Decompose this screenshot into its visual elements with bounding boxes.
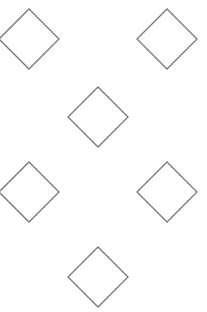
diamond-lower-right bbox=[137, 162, 197, 222]
diamond-top-right bbox=[137, 9, 197, 69]
diamond-top-left bbox=[0, 9, 59, 69]
diamond-center bbox=[68, 87, 128, 147]
diagram-canvas bbox=[0, 0, 207, 312]
diamond-bottom-center bbox=[68, 247, 128, 307]
diamond-lower-left bbox=[0, 162, 59, 222]
diamond-pattern bbox=[0, 0, 207, 312]
